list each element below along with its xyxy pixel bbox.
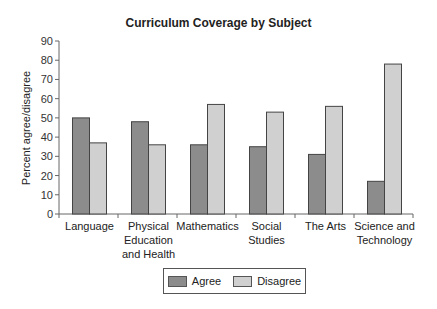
bar-disagree [90,143,107,214]
bar-agree [132,122,149,214]
legend-swatch-agree [168,276,187,287]
y-tick-label: 30 [41,150,53,162]
bar-disagree [326,106,343,214]
y-tick-label: 80 [41,54,53,66]
legend: Agree Disagree [163,268,306,294]
bar-disagree [267,112,284,214]
y-tick-label: 50 [41,112,53,124]
plot-area: 0102030405060708090 [0,0,437,309]
bar-disagree [385,64,402,214]
bar-agree [368,181,385,214]
bar-disagree [208,104,225,214]
bar-disagree [149,145,166,214]
y-tick-label: 90 [41,35,53,47]
legend-swatch-disagree [233,276,252,287]
y-tick-label: 40 [41,131,53,143]
legend-label-agree: Agree [192,275,221,287]
bar-agree [73,118,90,214]
y-tick-label: 60 [41,93,53,105]
bar-agree [250,147,267,214]
legend-item-agree: Agree [168,275,221,287]
x-tick-label: Science andTechnology [345,219,425,247]
legend-label-disagree: Disagree [257,275,301,287]
bar-agree [309,154,326,214]
y-tick-label: 20 [41,170,53,182]
y-tick-label: 10 [41,189,53,201]
legend-item-disagree: Disagree [233,275,301,287]
bar-agree [191,145,208,214]
y-tick-label: 70 [41,73,53,85]
